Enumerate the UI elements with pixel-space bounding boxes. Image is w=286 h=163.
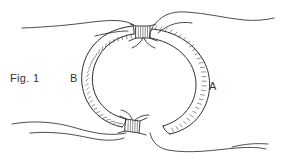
figure-drawing: Fig. 1 B A	[0, 0, 286, 163]
part-label-b: B	[70, 72, 77, 84]
tissue-upper-right-contour-2	[158, 22, 192, 33]
band-b-inner-edge	[92, 34, 134, 119]
bottom-clasp-ribs	[128, 120, 138, 133]
band-b-top-end	[133, 26, 134, 34]
tissue-lower-right-contour-2	[232, 144, 268, 147]
tissue-lower-left-contour	[12, 122, 126, 134]
top-clasp-stem	[132, 38, 143, 48]
figure-container: Fig. 1 B A	[0, 0, 286, 163]
tissue-upper-left-contour	[22, 20, 134, 28]
band-a-inner-edge	[150, 38, 196, 126]
tissue-lower-right-contour	[150, 133, 266, 152]
tissue-lower-left-contour-2	[30, 132, 124, 140]
band-a-bottom-end	[163, 126, 170, 134]
band-a-outer-edge	[152, 29, 210, 134]
band-a-group	[150, 26, 210, 134]
bottom-clasp-group	[118, 110, 149, 135]
part-label-a: A	[209, 80, 217, 92]
bottom-clasp-right-flare	[139, 118, 147, 135]
top-clasp-ribs	[138, 27, 147, 38]
figure-caption: Fig. 1	[10, 72, 39, 84]
